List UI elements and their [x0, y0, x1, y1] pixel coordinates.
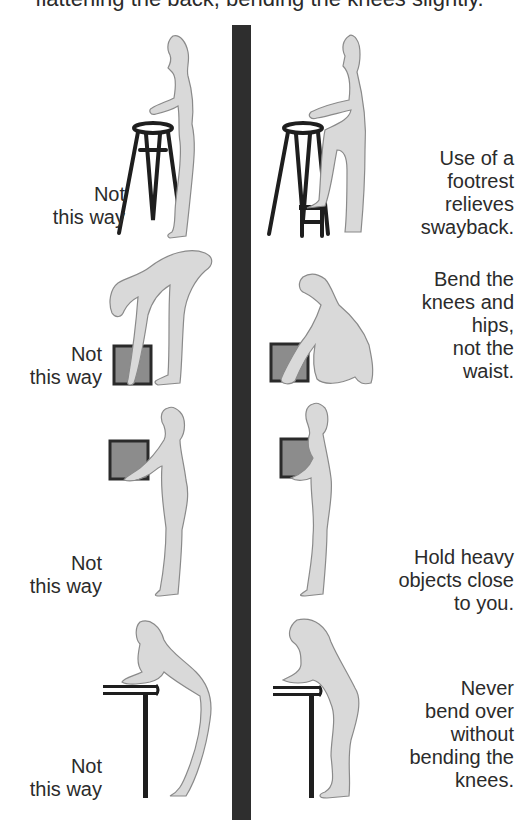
- caption-line: Not: [30, 552, 102, 575]
- row4-left-caption: Not this way: [30, 755, 102, 801]
- caption-line: this way: [30, 366, 102, 389]
- caption-line: Not: [30, 343, 102, 366]
- caption-line: Hold heavy: [398, 546, 514, 569]
- caption-line: knees.: [409, 769, 514, 792]
- caption-line: this way: [30, 575, 102, 598]
- caption-line: not the: [422, 337, 514, 360]
- row2-right-illustration: Bend the knees and hips, not the waist.: [251, 245, 519, 400]
- row4-left-illustration: Not this way: [0, 600, 232, 825]
- row1-right-caption: Use of a footrest relieves swayback.: [421, 147, 514, 239]
- row1-right-illustration: Use of a footrest relieves swayback.: [251, 0, 519, 245]
- caption-line: knees and: [422, 291, 514, 314]
- row1-left-illustration: Not this way: [0, 0, 232, 245]
- caption-line: hips,: [422, 314, 514, 337]
- caption-line: Never: [409, 677, 514, 700]
- row3-right-illustration: Hold heavy objects close to you.: [251, 400, 519, 600]
- caption-line: Use of a: [421, 147, 514, 170]
- caption-line: footrest: [421, 170, 514, 193]
- caption-line: without: [409, 723, 514, 746]
- row2-left-caption: Not this way: [30, 343, 102, 389]
- row2-right-caption: Bend the knees and hips, not the waist.: [422, 268, 514, 383]
- row1-left-caption: Not this way: [53, 183, 125, 229]
- caption-line: Not: [30, 755, 102, 778]
- caption-line: relieves: [421, 193, 514, 216]
- caption-line: swayback.: [421, 216, 514, 239]
- caption-line: this way: [30, 778, 102, 801]
- row4-right-caption: Never bend over without bending the knee…: [409, 677, 514, 792]
- caption-line: Not: [53, 183, 125, 206]
- caption-line: Bend the: [422, 268, 514, 291]
- caption-line: bending the: [409, 746, 514, 769]
- caption-line: bend over: [409, 700, 514, 723]
- row3-left-illustration: Not this way: [0, 400, 232, 600]
- caption-line: waist.: [422, 360, 514, 383]
- row2-left-illustration: Not this way: [0, 245, 232, 400]
- row4-right-illustration: Never bend over without bending the knee…: [251, 600, 519, 825]
- row3-left-caption: Not this way: [30, 552, 102, 598]
- center-divider-bar: [232, 25, 251, 820]
- caption-line: objects close: [398, 569, 514, 592]
- caption-line: this way: [53, 206, 125, 229]
